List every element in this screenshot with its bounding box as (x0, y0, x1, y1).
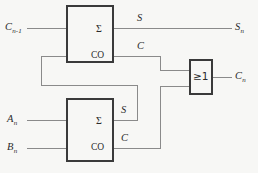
input-label-b: Bn (7, 142, 17, 153)
carry-in-subscript: n-1 (12, 27, 21, 35)
half-adder-upper-sum-port-label: Σ (96, 24, 102, 34)
wire-top-carry-to-or-gate (113, 56, 190, 70)
carry-out-base: C (235, 70, 242, 81)
b-input-subscript: n (14, 147, 18, 155)
half-adder-lower-carry-port-label: CO (91, 143, 104, 153)
half-adder-upper-sum-wire-label: S (137, 13, 142, 24)
output-label-carry: Cn (235, 71, 246, 82)
circuit-diagram-canvas: Cn-1 Sn Cn An Bn Σ CO S C Σ CO S C ≥1 (0, 0, 258, 173)
half-adder-upper-carry-wire-label: C (137, 41, 144, 52)
or-gate-symbol-label: ≥1 (193, 71, 208, 82)
input-label-a: An (7, 114, 17, 125)
b-input-base: B (7, 141, 13, 152)
carry-in-base: C (5, 21, 12, 32)
half-adder-upper-box[interactable] (67, 6, 113, 62)
half-adder-lower-box[interactable] (67, 99, 113, 161)
a-input-base: A (7, 113, 13, 124)
half-adder-lower-sum-wire-label: S (121, 105, 126, 116)
output-label-sum: Sn (235, 22, 244, 33)
input-label-carry-in: Cn-1 (5, 22, 21, 33)
diagram-svg (0, 0, 258, 173)
half-adder-lower-sum-port-label: Σ (96, 116, 102, 126)
half-adder-upper-carry-port-label: CO (91, 51, 104, 61)
half-adder-lower-carry-wire-label: C (121, 133, 128, 144)
sum-out-base: S (235, 21, 240, 32)
sum-out-subscript: n (241, 27, 245, 35)
a-input-subscript: n (14, 119, 18, 127)
carry-out-subscript: n (242, 76, 246, 84)
